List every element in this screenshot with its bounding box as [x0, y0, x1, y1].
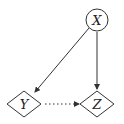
node-x-label: X	[91, 13, 102, 28]
node-z-label: Z	[91, 97, 102, 112]
edge-x-to-y	[35, 28, 89, 92]
node-y-label: Y	[20, 97, 30, 112]
node-y: Y	[7, 91, 41, 117]
node-x: X	[86, 9, 108, 31]
node-z: Z	[80, 91, 114, 117]
causal-diagram: X Y Z	[0, 0, 124, 124]
